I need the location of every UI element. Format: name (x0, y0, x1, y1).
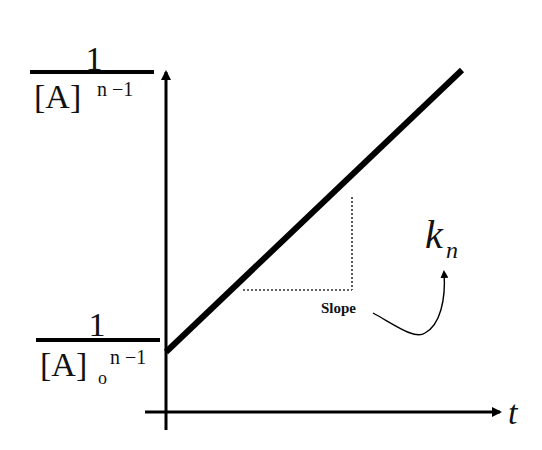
intercept-label-numerator: 1 (89, 306, 106, 343)
slope-to-k-arrow (373, 272, 444, 335)
y-axis-label: 1 [A] n −1 (30, 40, 154, 115)
y-intercept-label: 1 [A] o n −1 (36, 306, 160, 388)
y-label-exponent: n −1 (97, 78, 133, 100)
rate-law-diagram: 1 [A] n −1 1 [A] o n −1 t Slope k n (0, 0, 542, 450)
rate-constant-label: k n (425, 212, 458, 263)
k-symbol: k (425, 212, 444, 257)
y-label-denominator-base: [A] (34, 78, 81, 115)
intercept-label-denominator-base: [A] (40, 346, 87, 383)
intercept-label-fraction-bar (36, 338, 160, 342)
y-label-fraction-bar (30, 70, 154, 74)
slope-label: Slope (321, 300, 356, 316)
intercept-label-subscript: o (98, 368, 107, 388)
x-axis-label: t (508, 394, 519, 431)
plot-line (166, 70, 462, 352)
k-subscript: n (446, 237, 458, 263)
intercept-label-exponent: n −1 (110, 346, 146, 368)
